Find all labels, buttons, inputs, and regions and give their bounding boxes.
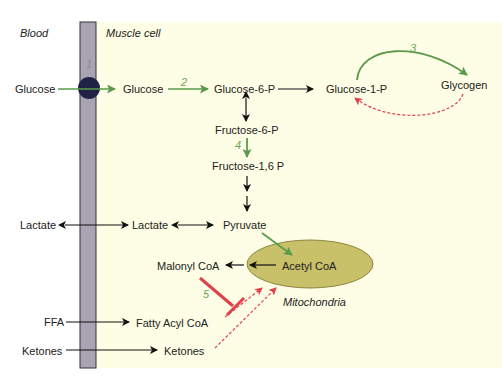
step-number-4: 4 [235, 139, 241, 151]
metabolite-glucose-cell: Glucose [123, 83, 163, 95]
step-number-2: 2 [181, 76, 187, 88]
step-number-1: 1 [86, 58, 92, 70]
metabolite-ketones-blood: Ketones [22, 345, 62, 357]
metabolite-glucose-6-p: Glucose-6-P [214, 83, 275, 95]
metabolite-fructose-6-p: Fructose-6-P [215, 124, 279, 136]
metabolite-fructose-16-p: Fructose-1,6 P [212, 160, 284, 172]
metabolite-ketones-cell: Ketones [164, 345, 204, 357]
region-blood: Blood [20, 27, 48, 39]
metabolite-lactate-cell: Lactate [132, 219, 168, 231]
metabolite-malonyl-coa: Malonyl CoA [157, 260, 219, 272]
metabolite-pyruvate: Pyruvate [223, 219, 266, 231]
metabolite-glucose-1-p: Glucose-1-P [326, 83, 387, 95]
metabolite-glucose-blood: Glucose [15, 83, 55, 95]
region-mitochondria: Mitochondria [283, 296, 346, 308]
metabolite-ffa: FFA [44, 316, 64, 328]
metabolite-lactate-blood: Lactate [20, 219, 56, 231]
glucose-transporter [78, 77, 100, 99]
step-number-5: 5 [203, 288, 209, 300]
metabolite-acetyl-coa: Acetyl CoA [282, 260, 336, 272]
metabolite-glycogen: Glycogen [441, 79, 487, 91]
cell-membrane [80, 22, 96, 368]
region-muscle-cell: Muscle cell [106, 27, 160, 39]
pathway-diagram [0, 0, 502, 384]
step-number-3: 3 [410, 42, 416, 54]
metabolite-fatty-acyl-coa: Fatty Acyl CoA [136, 317, 208, 329]
